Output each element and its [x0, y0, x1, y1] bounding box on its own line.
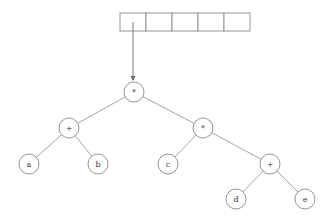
node-plus-right-label: +	[267, 160, 274, 169]
node-d: d	[226, 189, 246, 209]
node-e-label: e	[303, 195, 308, 204]
edge-root-times-right	[134, 92, 203, 128]
node-c: c	[158, 154, 178, 174]
edge-times-right-plus-right	[203, 128, 270, 164]
edge-root-plus-left	[69, 92, 134, 128]
array-cell-4	[224, 13, 250, 31]
array-cell-2	[172, 13, 198, 31]
node-root: *	[124, 82, 144, 102]
array-cell-1	[146, 13, 172, 31]
node-c-label: c	[166, 160, 171, 169]
expression-tree-diagram: * + * a b c + d e	[0, 0, 333, 222]
node-plus-right: +	[260, 154, 280, 174]
node-plus-left-label: +	[66, 124, 73, 133]
node-e: e	[295, 189, 315, 209]
node-b-label: b	[95, 160, 100, 169]
node-plus-left: +	[59, 118, 79, 138]
node-a: a	[19, 154, 39, 174]
node-root-label: *	[132, 88, 136, 97]
node-a-label: a	[27, 160, 32, 169]
node-d-label: d	[233, 195, 238, 204]
tree-edges	[29, 92, 305, 199]
node-b: b	[88, 154, 108, 174]
array-cell-3	[198, 13, 224, 31]
node-times-right-label: *	[201, 124, 205, 133]
node-times-right: *	[193, 118, 213, 138]
pointer-array	[120, 13, 250, 31]
